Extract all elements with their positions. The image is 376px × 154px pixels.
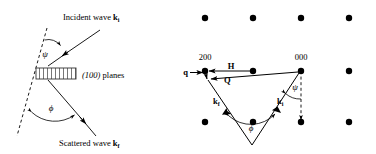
incident-wave-tail bbox=[48, 52, 68, 66]
node-label-000: 000 bbox=[295, 52, 308, 62]
node-label-200: 200 bbox=[199, 52, 212, 62]
vector-q-label: q bbox=[183, 67, 188, 77]
psi-angle-arc-right bbox=[286, 94, 302, 100]
vector-kf-subscript: f bbox=[218, 101, 221, 107]
psi-angle-label-left: ψ bbox=[42, 49, 48, 59]
planes-caption-text: planes bbox=[100, 70, 124, 80]
vector-kf bbox=[208, 80, 252, 145]
lattice-dot bbox=[298, 15, 304, 21]
crystal-planes-slab bbox=[36, 68, 76, 79]
phi-angle-label-right: ϕ bbox=[249, 123, 254, 133]
incident-wave-caption-subscript: i bbox=[118, 17, 120, 23]
phi-angle-arc bbox=[32, 112, 75, 121]
scattered-wave-extension bbox=[80, 117, 96, 136]
scattered-wave-caption-subscript: f bbox=[118, 143, 121, 149]
vector-Q-label: Q bbox=[224, 75, 231, 85]
left-panel-group: ψ ϕ Incident wave ki (100) planes Scatte… bbox=[17, 12, 124, 149]
planes-caption: (100) planes bbox=[82, 70, 124, 80]
lattice-dot bbox=[346, 68, 352, 74]
psi-angle-label-right: ψ bbox=[292, 82, 298, 92]
vector-kf-arrowhead bbox=[222, 108, 231, 115]
psi-angle-arc bbox=[45, 40, 61, 46]
phi-angle-label-left: ϕ bbox=[49, 103, 54, 113]
incident-wave-caption: Incident wave ki bbox=[63, 12, 120, 23]
diffraction-geometry-figure: ψ ϕ Incident wave ki (100) planes Scatte… bbox=[0, 0, 376, 154]
planes-caption-indices: (100) bbox=[82, 70, 101, 80]
lattice-dot bbox=[298, 119, 304, 125]
lattice-dot bbox=[250, 15, 256, 21]
vector-ki-subscript: i bbox=[282, 101, 284, 107]
lattice-dot bbox=[346, 15, 352, 21]
plane-normal-dashed-line bbox=[17, 28, 47, 136]
incident-wave-caption-text: Incident wave bbox=[63, 12, 113, 22]
right-panel-group: H Q q kf ki ψ bbox=[183, 15, 352, 145]
scattered-wave-caption-text: Scattered wave bbox=[59, 138, 113, 148]
scattered-wave-caption: Scattered wave kf bbox=[59, 138, 121, 149]
lattice-dot bbox=[202, 119, 208, 125]
lattice-dot bbox=[346, 119, 352, 125]
lattice-dot bbox=[250, 68, 256, 74]
lattice-dot bbox=[202, 15, 208, 21]
vector-H-label: H bbox=[228, 61, 235, 71]
figure-canvas: ψ ϕ Incident wave ki (100) planes Scatte… bbox=[0, 0, 376, 154]
